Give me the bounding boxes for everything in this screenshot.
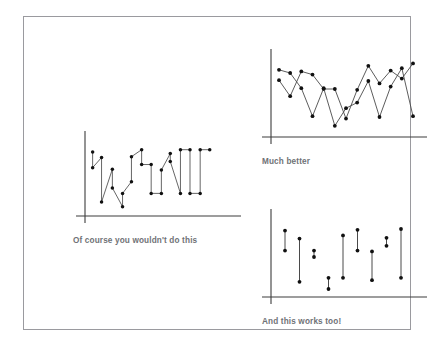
series-0-point-2 bbox=[299, 70, 303, 74]
series-1-point-9 bbox=[378, 115, 382, 119]
data-point-16 bbox=[169, 152, 173, 156]
chart-range-svg bbox=[258, 207, 423, 302]
range-high-point-3 bbox=[327, 276, 331, 280]
series-0-point-12 bbox=[411, 62, 415, 66]
range-low-point-1 bbox=[298, 280, 302, 284]
caption-bad: Of course you wouldn't do this bbox=[73, 236, 197, 245]
range-low-point-2 bbox=[312, 255, 316, 259]
range-high-point-8 bbox=[399, 227, 403, 231]
series-1-point-1 bbox=[288, 71, 292, 75]
data-point-7 bbox=[121, 192, 125, 196]
series-1-point-0 bbox=[277, 68, 281, 72]
series-0-point-7 bbox=[355, 88, 359, 92]
data-point-5 bbox=[111, 186, 115, 190]
data-point-10 bbox=[140, 148, 144, 152]
range-high-point-4 bbox=[341, 234, 345, 238]
range-high-point-2 bbox=[312, 249, 316, 253]
data-point-19 bbox=[179, 148, 183, 152]
range-low-point-8 bbox=[399, 276, 403, 280]
data-point-1 bbox=[91, 166, 95, 170]
data-point-8 bbox=[130, 180, 134, 184]
range-low-point-3 bbox=[327, 287, 331, 291]
series-1-point-7 bbox=[355, 101, 359, 105]
series-1-point-5 bbox=[333, 124, 337, 128]
series-1-point-8 bbox=[366, 79, 370, 83]
series-1-point-2 bbox=[299, 86, 303, 90]
series-0-point-9 bbox=[378, 82, 382, 86]
data-point-14 bbox=[160, 192, 164, 196]
data-point-20 bbox=[188, 148, 192, 152]
caption-range: And this works too! bbox=[262, 317, 341, 326]
range-high-point-0 bbox=[283, 229, 287, 233]
data-point-17 bbox=[169, 160, 173, 164]
series-0-point-11 bbox=[400, 77, 404, 81]
series-0-point-3 bbox=[311, 73, 315, 77]
data-point-22 bbox=[198, 192, 202, 196]
slide-frame: Of course you wouldn't do this Much bett… bbox=[23, 16, 411, 330]
data-path bbox=[93, 150, 210, 207]
range-high-point-5 bbox=[356, 228, 360, 232]
series-0-point-8 bbox=[366, 64, 370, 68]
series-0-point-6 bbox=[344, 117, 348, 121]
series-1-point-3 bbox=[311, 114, 315, 118]
data-point-13 bbox=[149, 192, 153, 196]
series-0-point-5 bbox=[333, 87, 337, 91]
data-point-0 bbox=[91, 150, 95, 154]
range-low-point-0 bbox=[283, 249, 287, 253]
slide-canvas: Of course you wouldn't do this Much bett… bbox=[0, 0, 439, 347]
series-0-path bbox=[279, 63, 413, 118]
series-1-point-10 bbox=[389, 85, 393, 89]
range-high-point-6 bbox=[370, 250, 374, 254]
series-0-point-0 bbox=[277, 78, 281, 82]
series-0-point-10 bbox=[389, 69, 393, 73]
data-point-3 bbox=[100, 200, 104, 204]
range-low-point-7 bbox=[385, 244, 389, 248]
chart-panel-bad bbox=[62, 129, 232, 224]
range-low-point-4 bbox=[341, 276, 345, 280]
chart-panel-range bbox=[258, 207, 423, 302]
data-point-24 bbox=[208, 148, 212, 152]
data-point-12 bbox=[149, 163, 153, 167]
series-1-point-4 bbox=[322, 86, 326, 90]
caption-better: Much better bbox=[262, 157, 310, 166]
chart-better-svg bbox=[258, 47, 423, 142]
range-high-point-7 bbox=[385, 236, 389, 240]
data-point-4 bbox=[111, 167, 115, 171]
data-point-21 bbox=[188, 192, 192, 196]
chart-panel-better bbox=[258, 47, 423, 142]
chart-bad-svg bbox=[62, 129, 232, 224]
data-point-11 bbox=[140, 163, 144, 167]
data-point-2 bbox=[100, 156, 104, 160]
series-1-point-11 bbox=[400, 66, 404, 70]
series-0-point-1 bbox=[288, 94, 292, 98]
data-point-15 bbox=[160, 168, 164, 172]
series-1-point-6 bbox=[344, 106, 348, 110]
range-low-point-5 bbox=[356, 249, 360, 253]
data-point-9 bbox=[130, 155, 134, 159]
series-1-point-12 bbox=[411, 114, 415, 118]
data-point-6 bbox=[121, 205, 125, 209]
range-high-point-1 bbox=[298, 237, 302, 241]
data-point-18 bbox=[179, 192, 183, 196]
range-low-point-6 bbox=[370, 278, 374, 282]
data-point-23 bbox=[198, 148, 202, 152]
